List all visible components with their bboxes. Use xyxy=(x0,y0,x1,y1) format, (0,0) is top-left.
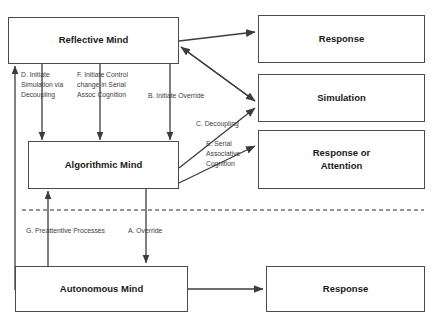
label-b-initiate-override: B. Initiate Override xyxy=(148,91,228,101)
box-response-top[interactable]: Response xyxy=(258,15,425,63)
box-response-bottom[interactable]: Response xyxy=(266,266,425,312)
tripartite-mind-diagram: Reflective Mind Response Simulation Resp… xyxy=(0,0,436,327)
label-g-preattentive: G. Preattentive Processes xyxy=(26,226,124,236)
label-d-initiate-simulation: D. Initiate Simulation via Decoupling xyxy=(21,70,77,100)
label-a-override: A. Override xyxy=(128,226,182,236)
label-f-initiate-control: F. Initiate Control change in Serial Ass… xyxy=(77,70,147,100)
arrow-reflective-to-response xyxy=(179,32,255,41)
label-e-serial-associative: E. Serial Associative Cognition xyxy=(206,139,254,169)
box-algorithmic-mind[interactable]: Algorithmic Mind xyxy=(28,141,179,189)
box-simulation[interactable]: Simulation xyxy=(258,74,425,122)
box-reflective-mind[interactable]: Reflective Mind xyxy=(8,17,179,64)
box-response-or-attention[interactable]: Response or Attention xyxy=(258,130,425,189)
label-c-decoupling: C. Decoupling xyxy=(196,119,258,129)
box-autonomous-mind[interactable]: Autonomous Mind xyxy=(15,266,188,312)
